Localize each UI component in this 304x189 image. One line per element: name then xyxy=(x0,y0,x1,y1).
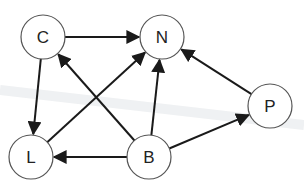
node-label: N xyxy=(156,28,168,47)
node-label: C xyxy=(37,28,49,47)
node-c: C xyxy=(21,15,65,59)
node-b: B xyxy=(127,135,171,179)
edge-b-to-n xyxy=(151,60,159,135)
node-n: N xyxy=(140,15,184,59)
node-label: B xyxy=(143,148,154,167)
node-p: P xyxy=(248,84,292,128)
edge-b-to-p xyxy=(169,115,249,149)
node-label: P xyxy=(264,97,275,116)
graph-diagram: CNPLB xyxy=(0,0,304,189)
node-label: L xyxy=(26,148,35,167)
edge-p-to-n xyxy=(181,49,251,94)
node-l: L xyxy=(9,135,53,179)
